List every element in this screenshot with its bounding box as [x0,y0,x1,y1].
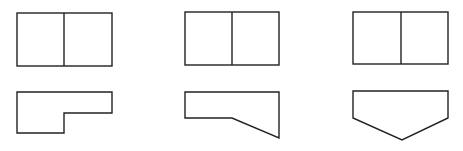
figure-3 [353,12,448,140]
figure-2-front-view-slanted-shape [185,92,279,138]
figure-3-front-view-pentagon-shape [353,91,448,140]
diagram-svg [0,0,463,151]
figure-2 [185,12,279,138]
diagram-canvas [0,0,463,151]
figure-1-front-view-stepped-shape [17,92,112,133]
figure-1 [17,13,112,133]
